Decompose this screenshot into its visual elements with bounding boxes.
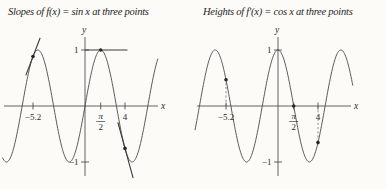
x-tick-label: 4	[123, 112, 128, 122]
y-tick-label: 1	[267, 45, 272, 55]
x-axis-label: x	[353, 101, 359, 111]
marked-point	[316, 141, 320, 145]
cosine-plot-canvas: xy−5.2π241−1	[193, 0, 386, 189]
marked-point	[99, 48, 103, 52]
x-tick-label: −5.2	[25, 112, 41, 122]
plot-title-slopes: Slopes of f(x) = sin x at three points	[8, 6, 149, 19]
marked-point	[224, 78, 228, 82]
sine-plot-canvas: xy−5.2π241−1	[0, 0, 193, 189]
derivative-of-sine-figure: xy−5.2π241−1 Slopes of f(x) = sin x at t…	[0, 0, 386, 189]
y-axis-label: y	[81, 25, 87, 35]
x-tick-fraction-denominator: 2	[98, 122, 103, 132]
x-tick-fraction-denominator: 2	[291, 122, 296, 132]
marked-point	[123, 147, 127, 151]
y-tick-label: −1	[262, 157, 272, 167]
marked-point	[292, 104, 296, 108]
y-tick-label: 1	[74, 45, 79, 55]
x-axis-label: x	[160, 101, 166, 111]
plot-heights-of-cos: xy−5.2π241−1 Heights of f′(x) = cos x at…	[193, 0, 386, 189]
x-tick-fraction-numerator: π	[98, 111, 103, 121]
plot-slopes-of-sin: xy−5.2π241−1 Slopes of f(x) = sin x at t…	[0, 0, 193, 189]
y-axis-label: y	[274, 25, 280, 35]
plot-title-heights: Heights of f′(x) = cos x at three points	[203, 6, 352, 19]
tangent-line	[118, 123, 133, 178]
marked-point	[31, 55, 35, 59]
